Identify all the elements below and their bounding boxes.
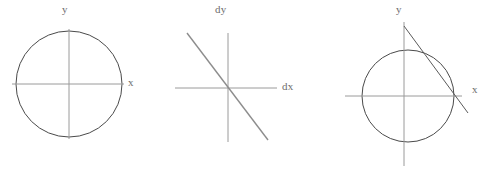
y-axis-label: y: [62, 4, 68, 15]
x-axis-label: x: [128, 77, 134, 88]
x-axis-label: x: [472, 84, 478, 95]
y-axis-label: y: [396, 4, 402, 15]
math-figure: y x dy dx y x: [0, 0, 499, 174]
tangent-line: [404, 26, 468, 113]
panel-derivative: dy dx: [166, 0, 332, 174]
dy-axis-label: dy: [215, 4, 227, 15]
panel-tangent: y x: [332, 0, 499, 174]
dx-axis-label: dx: [282, 81, 294, 92]
panel-circle: y x: [0, 0, 166, 174]
